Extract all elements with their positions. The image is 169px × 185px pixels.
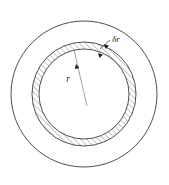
concentric-circles-diagram: r δr bbox=[0, 0, 169, 185]
radius-label: r bbox=[66, 74, 70, 84]
figure-canvas: r δr bbox=[0, 0, 169, 185]
hatched-shell-region bbox=[0, 0, 169, 185]
thickness-label: δr bbox=[112, 34, 120, 44]
